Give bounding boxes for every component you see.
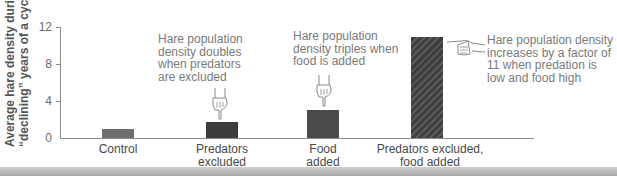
annotation-predators-excluded: Hare population density doubles when pre… <box>158 33 243 83</box>
category-label-food-added: Food added <box>292 143 354 169</box>
y-tick <box>56 101 61 102</box>
y-axis <box>60 27 61 139</box>
annotation-predators-excluded-food-added: Hare population density increases by a f… <box>487 34 613 84</box>
annotation-food-added: Hare population density triples when foo… <box>293 30 398 68</box>
annotation-line: when predators <box>158 58 243 71</box>
hand-pointing-down-icon <box>209 88 231 120</box>
hand-pointing-down-icon <box>313 75 335 107</box>
bar-predators-excluded-food-added <box>411 37 443 138</box>
category-label-predators-excluded: Predators excluded <box>187 143 257 169</box>
bar-control <box>102 129 134 138</box>
annotation-line: are excluded <box>158 71 243 84</box>
annotation-line: Hare population <box>158 33 243 46</box>
bar-predators-excluded <box>206 122 238 138</box>
y-tick-label: 4 <box>32 95 52 107</box>
y-tick-label: 8 <box>32 58 52 70</box>
category-label-predators-excluded-food-added: Predators excluded, food added <box>370 143 490 169</box>
annotation-line: Hare population <box>293 30 398 43</box>
category-label-control: Control <box>88 143 148 156</box>
y-axis-label-line-2: “declining” years of a cycle <box>17 17 31 147</box>
annotation-line: food is added <box>293 55 398 68</box>
y-axis-label-line-1: Average hare density during <box>3 17 17 147</box>
y-axis-label: Average hare density during “declining” … <box>3 17 41 147</box>
annotation-line: Hare population density <box>487 34 613 47</box>
category-label-line: Control <box>88 143 148 156</box>
page-edge-band <box>0 167 617 176</box>
annotation-line: 11 when predation is <box>487 59 613 72</box>
hand-pointing-left-icon <box>446 37 486 59</box>
y-tick <box>56 27 61 28</box>
y-tick-label: 0 <box>32 132 52 144</box>
y-tick <box>56 64 61 65</box>
x-axis <box>60 138 534 139</box>
annotation-line: low and food high <box>487 72 613 85</box>
y-tick-label: 12 <box>32 21 52 33</box>
bar-food-added <box>307 110 339 138</box>
